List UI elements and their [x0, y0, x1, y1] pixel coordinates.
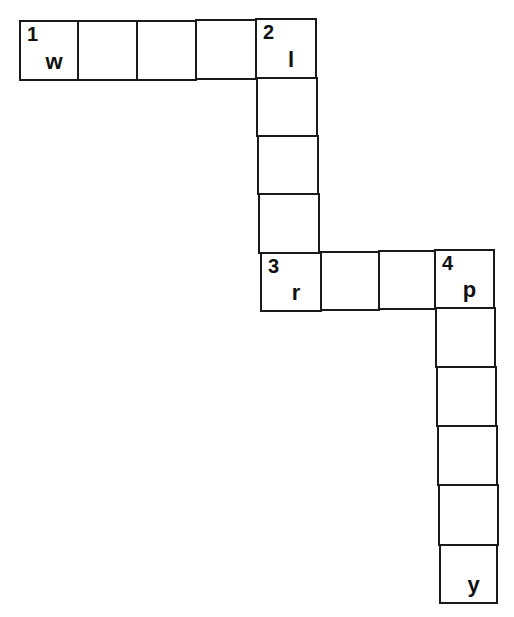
cell-letter: p [436, 279, 493, 301]
crossword-cell[interactable]: 4p [434, 249, 495, 309]
cell-letter: l [257, 49, 315, 71]
crossword-cell[interactable] [256, 77, 318, 137]
crossword-cell[interactable] [195, 19, 257, 80]
crossword-cell[interactable] [77, 20, 138, 81]
crossword-cell[interactable] [378, 250, 436, 310]
cell-letter: y [441, 574, 496, 596]
crossword-cell[interactable] [258, 193, 320, 254]
cell-letter: r [262, 282, 320, 304]
crossword-cell[interactable]: 3r [260, 252, 322, 312]
crossword-cell[interactable]: 1w [19, 20, 79, 81]
crossword-cell[interactable]: y [439, 544, 498, 604]
crossword-cell[interactable]: 2l [255, 18, 317, 79]
crossword-grid: 1w2l3r4py [0, 0, 514, 617]
crossword-cell[interactable] [437, 425, 498, 486]
cell-letter: w [21, 51, 77, 73]
clue-number: 2 [263, 22, 274, 42]
crossword-cell[interactable] [438, 484, 499, 546]
crossword-cell[interactable] [257, 135, 319, 195]
clue-number: 1 [27, 24, 38, 44]
crossword-cell[interactable] [436, 366, 497, 427]
crossword-cell[interactable] [320, 251, 380, 311]
clue-number: 4 [442, 253, 453, 273]
crossword-cell[interactable] [435, 307, 496, 368]
clue-number: 3 [268, 256, 279, 276]
crossword-cell[interactable] [136, 20, 197, 81]
